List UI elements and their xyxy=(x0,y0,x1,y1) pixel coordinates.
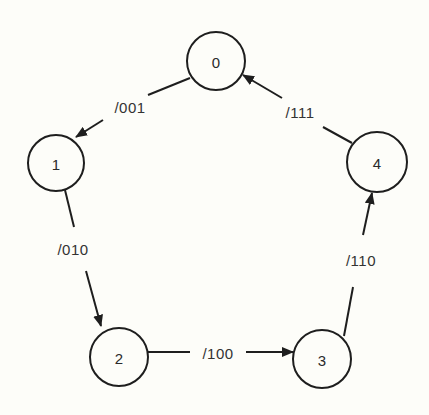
transition-4-to-0: /111 xyxy=(243,75,352,143)
state-node-1: 1 xyxy=(28,135,84,191)
edge-0-1-tail-segment xyxy=(148,78,190,95)
state-diagram: /001 /010 /100 /110 /111 0 1 2 3 xyxy=(0,0,429,415)
edge-4-0-arrow-segment xyxy=(243,75,282,98)
state-label-4: 4 xyxy=(373,155,381,172)
transition-2-to-3: /100 xyxy=(148,345,293,362)
transition-label-111: /111 xyxy=(286,104,315,121)
state-node-4: 4 xyxy=(347,132,407,192)
edge-0-1-arrow-segment xyxy=(76,120,103,137)
state-node-0: 0 xyxy=(187,32,245,90)
transition-0-to-1: /001 xyxy=(76,78,190,137)
state-label-1: 1 xyxy=(52,156,60,173)
transition-3-to-4: /110 xyxy=(344,193,376,336)
transition-label-001: /001 xyxy=(114,99,145,116)
edge-3-4-tail-segment xyxy=(344,287,353,336)
state-node-2: 2 xyxy=(90,328,148,386)
state-label-3: 3 xyxy=(318,352,326,369)
transition-label-110: /110 xyxy=(346,252,376,269)
edge-1-2-arrow-segment xyxy=(86,271,101,326)
transition-label-010: /010 xyxy=(57,241,88,258)
edge-4-0-tail-segment xyxy=(323,127,352,143)
state-label-0: 0 xyxy=(212,54,220,71)
state-label-2: 2 xyxy=(115,350,123,367)
state-node-3: 3 xyxy=(293,330,351,388)
edge-1-2-tail-segment xyxy=(65,190,74,227)
transition-1-to-2: /010 xyxy=(57,190,101,326)
edge-3-4-arrow-segment xyxy=(363,193,372,235)
transition-label-100: /100 xyxy=(202,345,233,362)
